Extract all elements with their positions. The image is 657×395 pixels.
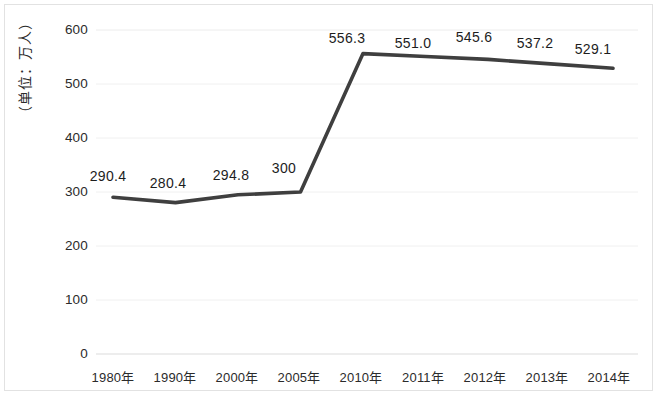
- data-label-2010: 556.3: [312, 30, 382, 46]
- x-tick-label-2011: 2011年: [388, 367, 458, 386]
- x-tick-label-2014: 2014年: [574, 367, 644, 386]
- data-label-2005: 300: [253, 160, 315, 176]
- line-chart-figure: （单位：万人） 600 500 400 300 200 100 0 290.4 …: [0, 0, 657, 395]
- data-label-2014: 529.1: [558, 41, 628, 57]
- data-label-2012: 545.6: [439, 29, 509, 45]
- x-tick-label-2012: 2012年: [450, 367, 520, 386]
- data-label-2011: 551.0: [378, 35, 448, 51]
- x-tick-label-2013: 2013年: [512, 367, 582, 386]
- gridlines: [96, 30, 638, 354]
- data-label-1990: 280.4: [133, 175, 203, 191]
- x-tick-label-1980: 1980年: [78, 367, 148, 386]
- x-tick-label-2010: 2010年: [326, 367, 396, 386]
- plot-area: [0, 0, 657, 395]
- x-tick-label-2005: 2005年: [264, 367, 334, 386]
- x-tick-label-2000: 2000年: [202, 367, 272, 386]
- x-tick-label-1990: 1990年: [140, 367, 210, 386]
